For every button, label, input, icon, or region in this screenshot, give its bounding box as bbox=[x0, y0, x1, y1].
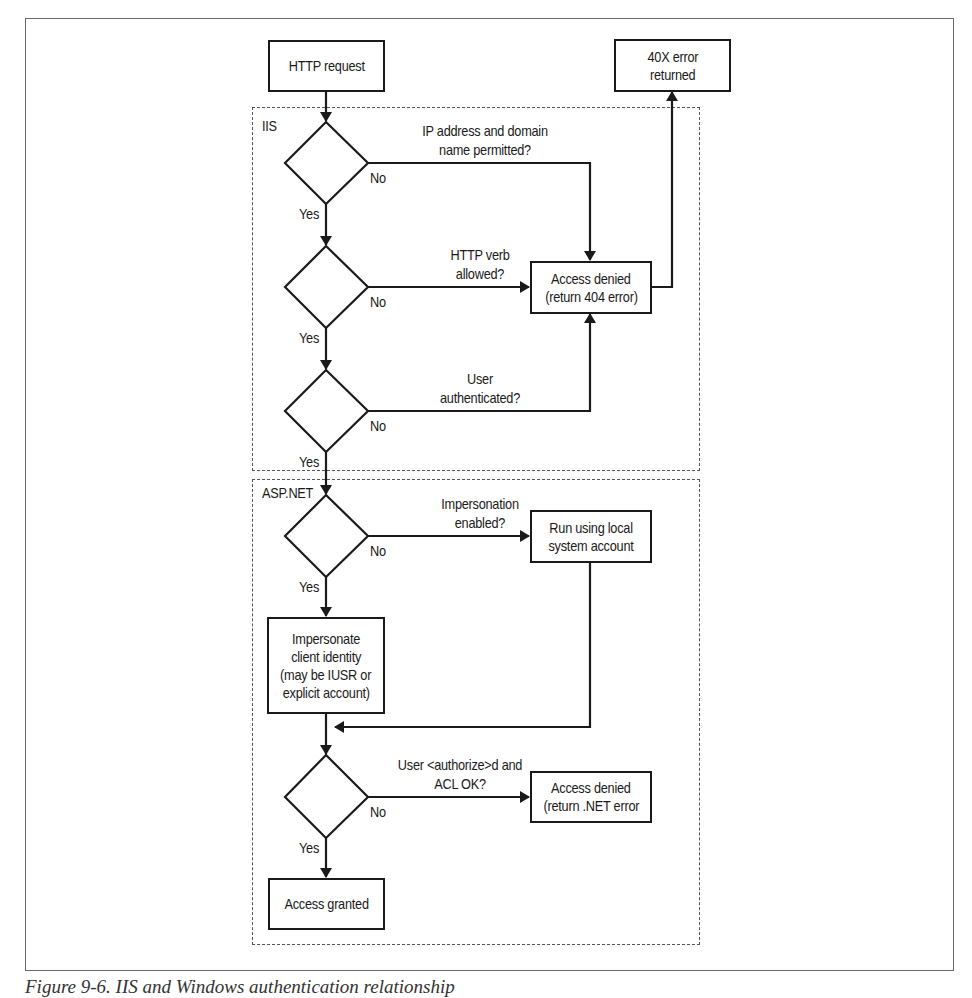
node-text: Impersonate bbox=[292, 630, 360, 648]
node-text: (may be IUSR or bbox=[280, 666, 371, 684]
node-text: Access granted bbox=[284, 895, 368, 913]
decision-question-impersonation: Impersonation enabled? bbox=[380, 494, 580, 532]
node-text: (return .NET error bbox=[543, 797, 639, 815]
node-text: client identity bbox=[291, 648, 361, 666]
yes-label-http-verb: Yes bbox=[299, 329, 319, 346]
decision-diamond-user-auth bbox=[285, 370, 368, 452]
decision-diamond-ip-domain bbox=[285, 122, 368, 204]
question-text: HTTP verb bbox=[412, 245, 548, 264]
node-text: HTTP request bbox=[288, 57, 364, 75]
yes-label-ip-domain: Yes bbox=[299, 205, 319, 222]
no-label-impersonation: No bbox=[370, 542, 386, 559]
decision-question-ip-domain: IP address and domain name permitted? bbox=[380, 121, 590, 159]
decision-diamond-authorize-acl bbox=[285, 755, 368, 838]
decision-diamond-impersonation bbox=[285, 495, 368, 577]
question-text: name permitted? bbox=[396, 140, 575, 159]
node-text: Access denied bbox=[551, 779, 631, 797]
access-granted-node: Access granted bbox=[268, 878, 385, 930]
no-label-authorize-acl: No bbox=[370, 803, 386, 820]
yes-label-authorize-acl: Yes bbox=[299, 839, 319, 856]
question-text: authenticated? bbox=[395, 388, 565, 407]
question-text: ACL OK? bbox=[375, 774, 545, 793]
http-request-node: HTTP request bbox=[268, 40, 385, 92]
question-text: IP address and domain bbox=[396, 121, 575, 140]
question-text: User <authorize>d and bbox=[375, 755, 545, 774]
error-40x-node: 40X error returned bbox=[614, 39, 731, 92]
no-label-user-auth: No bbox=[370, 417, 386, 434]
decision-question-http-verb: HTTP verb allowed? bbox=[400, 245, 560, 283]
no-label-http-verb: No bbox=[370, 293, 386, 310]
question-text: User bbox=[395, 369, 565, 388]
decision-question-user-auth: User authenticated? bbox=[380, 369, 580, 407]
figure-caption: Figure 9-6. IIS and Windows authenticati… bbox=[25, 976, 455, 998]
node-text: (return 404 error) bbox=[545, 288, 637, 306]
node-text: Access denied bbox=[551, 270, 631, 288]
node-text: 40X error bbox=[647, 48, 698, 66]
decision-diamond-http-verb bbox=[285, 246, 368, 328]
no-label-ip-domain: No bbox=[370, 169, 386, 186]
node-text: explicit account) bbox=[282, 684, 369, 702]
yes-label-user-auth: Yes bbox=[299, 453, 319, 470]
yes-label-impersonation: Yes bbox=[299, 578, 319, 595]
question-text: enabled? bbox=[395, 513, 565, 532]
question-text: allowed? bbox=[412, 264, 548, 283]
node-text: returned bbox=[650, 66, 695, 84]
question-text: Impersonation bbox=[395, 494, 565, 513]
impersonate-client-node: Impersonate client identity (may be IUSR… bbox=[267, 617, 385, 714]
node-text: system account bbox=[548, 537, 633, 555]
decision-question-authorize-acl: User <authorize>d and ACL OK? bbox=[360, 755, 560, 793]
